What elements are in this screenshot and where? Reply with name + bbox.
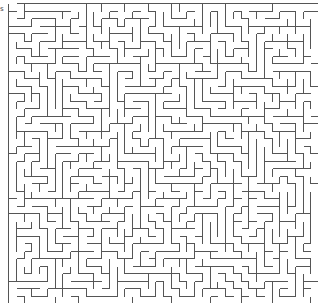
start-marker: s [0,6,4,13]
maze-walls [8,3,318,303]
maze-board [8,3,318,303]
